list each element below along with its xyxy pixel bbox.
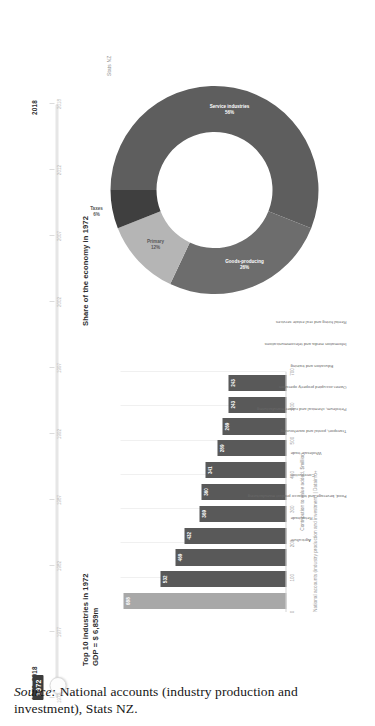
donut-slice-name: Taxes (90, 207, 103, 212)
bar[interactable]: 469 (175, 549, 286, 565)
bar-chart-title: Top 10 industries in 1972 (80, 466, 90, 666)
slider-tick (49, 499, 54, 500)
slider-tick-label: 2007 (56, 231, 61, 241)
bar-value-label: 243 (230, 401, 235, 409)
slider-tick (49, 565, 54, 566)
bar-x-tick-label: 300 (289, 505, 294, 513)
bar[interactable]: 243 (228, 375, 286, 391)
bar-category-label: Wholesale trade (290, 450, 346, 455)
slider-tick-label: 1987 (56, 495, 61, 505)
donut-slice-percent: 12% (146, 245, 163, 251)
donut-slice-label: Goods-producing26% (225, 259, 264, 271)
slider-tick (49, 103, 54, 104)
bar-value-label: 532 (162, 575, 167, 583)
slider-tick-label: 1982 (56, 561, 61, 571)
rotated-infographic-canvas: 1972–2018 2018 1972197719821987199219972… (0, 0, 375, 726)
bar-x-tick-label: 200 (289, 540, 294, 548)
bar[interactable]: 532 (160, 571, 286, 587)
bar-x-tick-label: 100 (289, 574, 294, 582)
bar-category-label: Owner-occupied property operation (290, 385, 346, 390)
donut-slice[interactable] (170, 211, 311, 294)
bar[interactable]: 432 (184, 528, 286, 544)
slider-tick-label: 2002 (56, 297, 61, 307)
bar-category-label: Food, beverage and tobacco product manuf… (290, 494, 346, 499)
bar-x-axis-title: Contribution to value added, $million (299, 453, 304, 531)
donut-slice-percent: 26% (225, 265, 264, 271)
bar-value-label: 369 (201, 510, 206, 518)
bar-chart-panel: 688532469432369360341289269243243 Agricu… (96, 366, 346, 666)
figure-caption: Source: National accounts (industry prod… (14, 684, 367, 718)
bar-x-tick-label: 600 (289, 402, 294, 410)
donut-chart-title: Share of the economy in 1972 (80, 106, 90, 326)
bar-x-tick-label: 0 (289, 611, 294, 614)
slider-tick (49, 433, 54, 434)
slider-tick-label: 1992 (56, 429, 61, 439)
slider-tick (49, 631, 54, 632)
slider-tick-label: 1997 (56, 363, 61, 373)
donut-slice-name: Goods-producing (225, 259, 264, 264)
bar-value-label: 289 (219, 445, 224, 453)
bar-value-label: 341 (207, 466, 212, 474)
donut-slice-name: Primary (146, 239, 163, 244)
bar-category-label: Education and training (290, 363, 346, 368)
slider-tick (49, 367, 54, 368)
bar-category-label: Petroleum, chemical and rubber manufactu… (290, 407, 346, 412)
slider-tick (49, 235, 54, 236)
bar-category-label: Agriculture (290, 538, 346, 543)
infographic-sheet: 1972–2018 2018 1972197719821987199219972… (0, 0, 375, 726)
bar[interactable]: 289 (217, 440, 286, 456)
bar-category-label: Information media and telecommunications (290, 341, 346, 346)
donut-holder: Service industries56%Goods-producing26%P… (102, 78, 326, 302)
slider-tick-marks: 1972197719821987199219972002200720122018 (49, 104, 65, 698)
year-slider[interactable]: 1972–2018 2018 1972197719821987199219972… (30, 100, 76, 700)
donut-slice-label: Service industries56% (209, 104, 249, 116)
slider-tick-label: 2012 (56, 165, 61, 175)
donut-slice-percent: 56% (209, 110, 249, 116)
bar-value-label: 243 (230, 379, 235, 387)
bar[interactable]: 688 (123, 593, 286, 609)
bar-value-label: 432 (186, 532, 191, 540)
bar-x-tick-label: 700 (289, 368, 294, 376)
bar-category-label: Transport, postal and warehousing (290, 429, 346, 434)
slider-tick (49, 169, 54, 170)
bar-category-label: Construction (290, 472, 346, 477)
bar-category-label: Retail trade (290, 516, 346, 521)
slider-tick-label: 2018 (56, 99, 61, 109)
bar-gridline (120, 371, 286, 372)
slider-tick (49, 301, 54, 302)
caption-source-text: National accounts (industry production a… (14, 684, 298, 716)
bar-value-label: 469 (177, 554, 182, 562)
bar-value-label: 688 (125, 597, 130, 605)
donut-chart-panel: Service industries56%Goods-producing26%P… (96, 36, 346, 326)
bar-x-tick-label: 500 (289, 437, 294, 445)
bar[interactable]: 341 (205, 462, 286, 478)
bar-value-label: 269 (224, 423, 229, 431)
donut-slice-percent: 6% (90, 213, 103, 219)
bar-chart-footnote: National accounts (industry production a… (312, 470, 317, 612)
donut-slice-label: Primary12% (146, 239, 163, 251)
slider-tick-label: 1977 (56, 627, 61, 637)
bar-x-tick-label: 400 (289, 471, 294, 479)
donut-slice-label: Taxes6% (90, 207, 103, 219)
bar-value-label: 360 (203, 488, 208, 496)
bar[interactable]: 269 (222, 418, 286, 434)
caption-source-word: Source: (14, 684, 56, 699)
slider-end-label: 2018 (30, 100, 37, 115)
donut-slice-name: Service industries (209, 104, 249, 109)
bar[interactable]: 369 (199, 506, 287, 522)
stats-nz-credit: Stats NZ (106, 56, 111, 76)
